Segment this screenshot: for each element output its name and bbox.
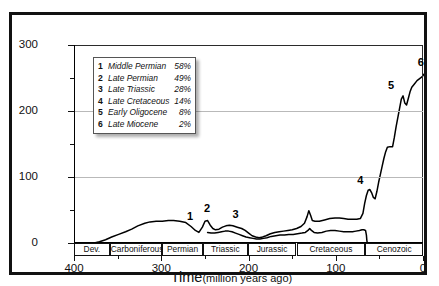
plot-right-rule — [422, 45, 423, 242]
legend-percent-5: 8% — [171, 107, 191, 117]
y-tick-label-200: 200 — [19, 104, 38, 116]
legend-number-4: 4 — [98, 96, 108, 106]
x-tick-50 — [379, 256, 380, 259]
x-tick-400 — [74, 256, 75, 261]
y-tick-label-100: 100 — [19, 170, 38, 182]
y-tick-150 — [70, 144, 74, 145]
figure-frame: Number of families 123456 0100200300 400… — [9, 12, 427, 275]
legend-row-1: 1Middle Permian58% — [98, 61, 191, 73]
x-tick-150 — [292, 256, 293, 259]
legend-percent-1: 58% — [171, 61, 191, 71]
geologic-period-bands: Dev.CarboniferousPermianTriassicJurassic… — [74, 243, 423, 256]
legend-label-6: Late Miocene — [108, 119, 171, 129]
legend: 1Middle Permian58%2Late Permian49%3Late … — [93, 57, 196, 134]
y-tick-300 — [68, 45, 74, 46]
x-tick-350 — [118, 256, 119, 259]
y-tick-label-0: 0 — [32, 236, 38, 248]
legend-number-6: 6 — [98, 119, 108, 129]
legend-label-4: Late Cretaceous — [108, 96, 171, 106]
x-tick-250 — [205, 256, 206, 259]
legend-number-3: 3 — [98, 84, 108, 94]
period-band-cenozoic: Cenozoic — [365, 243, 423, 256]
legend-row-6: 6Late Miocene2% — [98, 119, 191, 131]
figure: Number of families 123456 0100200300 400… — [0, 0, 439, 286]
event-marker-2: 2 — [204, 202, 210, 214]
legend-label-5: Early Oligocene — [108, 107, 171, 117]
x-tick-0 — [423, 256, 424, 261]
x-axis-title: Time(million years ago) — [12, 269, 439, 285]
legend-row-5: 5Early Oligocene8% — [98, 107, 191, 119]
event-marker-5: 5 — [388, 79, 394, 91]
legend-percent-4: 14% — [171, 96, 191, 106]
y-tick-200 — [68, 111, 74, 112]
x-axis-title-sub: (million years ago) — [202, 272, 292, 284]
gridline-100 — [75, 177, 423, 178]
period-band-dev: Dev. — [74, 243, 110, 256]
x-tick-200 — [249, 256, 250, 261]
period-band-jurassic: Jurassic — [248, 243, 297, 256]
x-tick-300 — [161, 256, 162, 261]
legend-percent-6: 2% — [171, 119, 191, 129]
x-tick-100 — [336, 256, 337, 261]
event-marker-3: 3 — [233, 208, 239, 220]
legend-label-2: Late Permian — [108, 73, 171, 83]
event-marker-6: 6 — [418, 56, 424, 68]
y-tick-50 — [70, 210, 74, 211]
period-band-triassic: Triassic — [203, 243, 248, 256]
legend-row-3: 3Late Triassic28% — [98, 84, 191, 96]
x-axis-title-main: Time — [171, 269, 203, 285]
legend-label-3: Late Triassic — [108, 84, 171, 94]
legend-number-5: 5 — [98, 107, 108, 117]
legend-percent-2: 49% — [171, 73, 191, 83]
legend-number-2: 2 — [98, 73, 108, 83]
period-band-permian: Permian — [162, 243, 203, 256]
y-tick-100 — [68, 177, 74, 178]
legend-label-1: Middle Permian — [108, 61, 171, 71]
legend-percent-3: 28% — [171, 84, 191, 94]
plot-top-rule — [75, 45, 423, 46]
y-tick-250 — [70, 78, 74, 79]
event-marker-1: 1 — [187, 210, 193, 222]
period-band-cretaceous: Cretaceous — [297, 243, 366, 256]
y-tick-label-300: 300 — [19, 38, 38, 50]
legend-number-1: 1 — [98, 61, 108, 71]
period-band-carboniferous: Carboniferous — [110, 243, 162, 256]
legend-row-4: 4Late Cretaceous14% — [98, 96, 191, 108]
legend-row-2: 2Late Permian49% — [98, 73, 191, 85]
event-marker-4: 4 — [357, 174, 363, 186]
